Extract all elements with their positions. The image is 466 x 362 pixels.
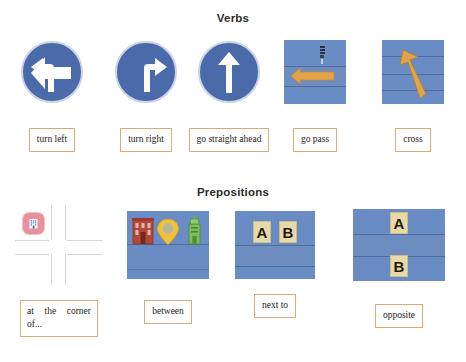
prep-label-cell: opposite <box>332 300 466 328</box>
sign-turn-left-icon <box>21 41 83 103</box>
prepositions-icon-row: A B A B <box>0 204 466 286</box>
street-segment <box>67 254 103 255</box>
verb-label-cell: go pass <box>270 128 360 152</box>
prep-label-cell: at the corner of... <box>0 300 118 337</box>
sign-turn-right-icon <box>115 41 177 103</box>
label-cross[interactable]: cross <box>395 128 431 152</box>
letter-tile-b: B <box>390 255 408 277</box>
letter-tile-a: A <box>253 221 271 243</box>
label-opposite[interactable]: opposite <box>375 304 423 328</box>
verb-item-cross <box>360 40 466 104</box>
verb-label-cell: go straight ahead <box>188 128 270 152</box>
verb-label-cell: cross <box>360 128 466 152</box>
verb-item-turn-left <box>0 41 104 103</box>
prep-item-at-the-corner-of <box>0 205 118 285</box>
street-segment <box>65 205 66 240</box>
prep-item-opposite: A B <box>332 209 466 281</box>
building-icon <box>23 213 44 234</box>
red-building-icon <box>132 218 154 244</box>
label-turn-right[interactable]: turn right <box>120 128 172 152</box>
scene-go-pass-icon <box>284 40 346 104</box>
arrow-diagonal-up-left-icon <box>400 50 426 98</box>
label-next-to[interactable]: next to <box>254 294 296 318</box>
verbs-label-row: turn left turn right go straight ahead g… <box>0 128 466 152</box>
letter-tile-a: A <box>390 212 408 234</box>
street-segment <box>65 254 66 285</box>
road-band <box>353 235 445 256</box>
scene-opposite-icon: A B <box>353 209 445 281</box>
prepositions-label-row: at the corner of... between next to oppo… <box>0 300 466 337</box>
verb-label-cell: turn right <box>104 128 188 152</box>
street-segment <box>67 240 103 241</box>
street-segment <box>15 254 49 255</box>
green-tower-icon <box>189 215 200 244</box>
street-segment <box>51 254 52 285</box>
verbs-icon-row <box>0 34 466 110</box>
label-go-straight-ahead[interactable]: go straight ahead <box>189 128 270 152</box>
street-segment <box>15 240 49 241</box>
verb-item-go-pass <box>270 40 360 104</box>
prep-item-next-to: A B <box>218 211 332 279</box>
verb-item-go-straight-ahead <box>188 41 270 103</box>
prepositions-section-title: Prepositions <box>0 186 466 198</box>
letter-tile-b: B <box>279 221 297 243</box>
worksheet-page: Verbs <box>0 0 466 362</box>
road-line <box>235 266 315 267</box>
label-go-pass[interactable]: go pass <box>293 128 337 152</box>
prep-label-cell: next to <box>218 300 332 318</box>
arrow-left-icon <box>291 68 334 84</box>
label-turn-left[interactable]: turn left <box>29 128 75 152</box>
road-band <box>235 246 315 266</box>
map-intersection-icon <box>13 205 105 285</box>
verb-item-turn-right <box>104 41 188 103</box>
verb-label-cell: turn left <box>0 128 104 152</box>
pedestrian-figure-icon <box>320 46 325 64</box>
scene-between-icon <box>127 211 209 279</box>
label-at-the-corner-of[interactable]: at the corner of... <box>20 300 98 337</box>
verbs-section-title: Verbs <box>0 12 466 24</box>
map-pin-icon <box>158 219 179 245</box>
street-segment <box>51 205 52 240</box>
prep-label-cell: between <box>118 300 218 324</box>
prep-item-between <box>118 211 218 279</box>
scene-cross-icon <box>382 40 444 104</box>
scene-next-to-icon: A B <box>235 211 315 279</box>
sign-go-straight-icon <box>198 41 260 103</box>
label-between[interactable]: between <box>144 300 192 324</box>
